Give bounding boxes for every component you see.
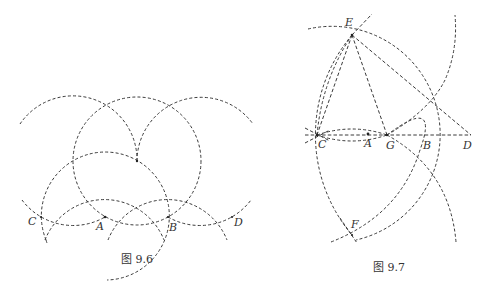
arc-f-g-top xyxy=(331,15,456,242)
arc-lower-left-main xyxy=(45,200,164,240)
label-a2: A xyxy=(363,137,372,150)
arc-upper-right-top xyxy=(137,97,253,161)
point-e-mark xyxy=(351,34,354,37)
arc-lower-right-main xyxy=(108,200,227,240)
arc-upper-left-top xyxy=(20,96,137,161)
arc-center-c xyxy=(308,26,440,240)
point-f-mark xyxy=(351,234,353,236)
point-a2-mark xyxy=(367,133,370,136)
label-c2: C xyxy=(318,138,327,151)
label-c: C xyxy=(28,215,37,228)
point-a-mark xyxy=(104,216,107,219)
label-d2: D xyxy=(462,139,472,152)
caption-fig-9-6: 图 9.6 xyxy=(121,253,153,266)
label-d: D xyxy=(233,216,243,229)
line-e-ext xyxy=(352,14,372,35)
label-f: F xyxy=(350,218,359,231)
label-g: G xyxy=(386,139,395,152)
figure-9-7: E C A G B D F 图 9.7 xyxy=(305,14,472,274)
geometry-figures: C A B D 图 9.6 E C xyxy=(0,0,479,282)
label-b: B xyxy=(168,221,177,234)
point-c-mark xyxy=(40,216,42,218)
label-a: A xyxy=(95,220,104,233)
point-b-mark xyxy=(167,216,169,218)
label-b2: B xyxy=(422,139,431,152)
point-d-mark xyxy=(231,216,233,218)
arc-g-down xyxy=(387,135,456,242)
center-point xyxy=(136,160,138,162)
line-ec xyxy=(317,35,352,135)
label-e: E xyxy=(344,16,353,29)
lens-upper xyxy=(317,129,387,135)
point-c2-mark xyxy=(316,134,319,137)
figure-9-6: C A B D 图 9.6 xyxy=(20,96,253,280)
caption-fig-9-7: 图 9.7 xyxy=(373,261,405,274)
point-g-mark xyxy=(386,134,389,137)
